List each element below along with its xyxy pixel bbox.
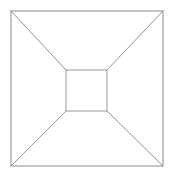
perspective-box-svg [0, 0, 173, 176]
diagonal-top-left-line [11, 11, 66, 70]
inner-square [66, 70, 107, 111]
diagram-canvas [0, 0, 173, 176]
diagonal-top-right-line [107, 11, 163, 70]
diagonal-bottom-left-line [11, 111, 66, 166]
diagonal-bottom-right-line [107, 111, 163, 166]
